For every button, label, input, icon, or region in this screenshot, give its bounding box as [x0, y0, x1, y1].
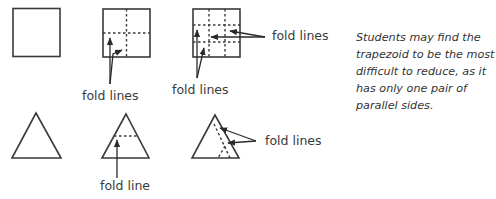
square3-arrows-bottom: [197, 30, 204, 78]
square3-arrows-right: [211, 31, 265, 37]
arrow-icon: [110, 50, 122, 84]
fold-lines-label: fold lines: [172, 82, 229, 97]
square2-arrows: [110, 38, 122, 84]
square-plain: [13, 9, 60, 57]
square-ninths: [193, 9, 240, 57]
triangle-one-fold: [102, 114, 149, 158]
trapezoid-note: Students may find the trapezoid to be th…: [356, 29, 496, 114]
triangle3-arrows: [220, 128, 256, 143]
triangle-two-folds: [192, 115, 239, 158]
fold-line-diagonal: [218, 146, 225, 158]
arrow-icon: [228, 141, 256, 143]
fold-lines-label: fold lines: [272, 28, 329, 43]
arrow-icon: [230, 31, 265, 37]
arrow-icon: [197, 48, 204, 78]
triangle-plain: [12, 113, 61, 158]
fold-lines-label: fold lines: [82, 88, 139, 103]
fold-lines-label: fold lines: [265, 133, 322, 148]
fold-line-label: fold line: [100, 178, 150, 193]
